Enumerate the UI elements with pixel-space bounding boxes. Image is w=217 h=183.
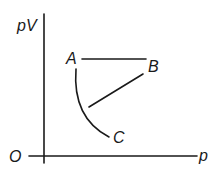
point-label-c: C xyxy=(113,129,125,146)
process-paths xyxy=(76,59,146,137)
curve-a-c xyxy=(76,69,109,137)
point-label-a: A xyxy=(65,50,77,67)
x-axis-label: p xyxy=(198,147,208,164)
segment-b-c xyxy=(89,74,143,107)
origin-label: O xyxy=(9,148,21,165)
point-label-b: B xyxy=(148,58,159,75)
y-axis-label: pV xyxy=(16,17,38,34)
pv-p-diagram: pV p O A B C xyxy=(0,0,217,183)
